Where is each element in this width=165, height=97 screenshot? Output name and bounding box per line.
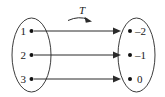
transformation-arrowhead xyxy=(85,17,93,23)
codomain-element-label-2: –1 xyxy=(134,49,146,61)
domain-element-label-3: 3 xyxy=(21,73,27,85)
codomain-dot-2 xyxy=(128,53,132,57)
codomain-element-label-1: –2 xyxy=(134,25,146,37)
domain-dot-2 xyxy=(30,53,34,57)
mapping-arrowhead-2 xyxy=(113,52,121,59)
mapping-arrowhead-3 xyxy=(113,76,121,83)
codomain-dot-3 xyxy=(128,77,132,81)
codomain-dot-1 xyxy=(128,29,132,33)
domain-element-label-2: 2 xyxy=(21,49,27,61)
domain-dot-1 xyxy=(30,29,34,33)
transformation-label: T xyxy=(79,4,86,16)
mapping-diagram: 1 –2 2 –1 3 0 T xyxy=(0,0,165,97)
codomain-element-label-3: 0 xyxy=(137,73,143,85)
mapping-arrowhead-1 xyxy=(113,28,121,35)
domain-element-label-1: 1 xyxy=(21,25,27,37)
domain-dot-3 xyxy=(30,77,34,81)
